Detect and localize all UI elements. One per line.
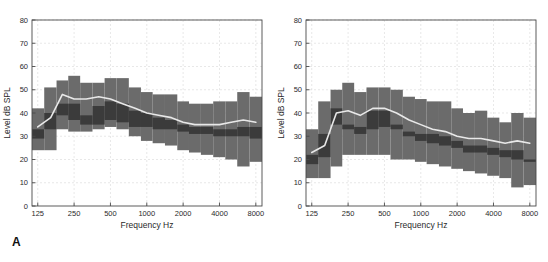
inner-percentile-bar <box>250 127 262 139</box>
y-axis-title: Level dB SPL <box>2 87 12 139</box>
y-tick-label: 0 <box>24 202 28 211</box>
y-tick-label: 50 <box>20 85 28 94</box>
inner-percentile-bar <box>487 148 499 155</box>
inner-percentile-bar <box>105 101 117 120</box>
y-tick-label: 20 <box>294 155 302 164</box>
y-tick-label: 40 <box>20 109 28 118</box>
plot-area-a: 0102030405060708012525050010002000400080… <box>0 0 274 262</box>
inner-percentile-bar <box>80 115 92 124</box>
inner-percentile-bar <box>366 111 378 130</box>
y-tick-label: 60 <box>294 62 302 71</box>
inner-percentile-bar <box>68 104 80 120</box>
inner-percentile-bar <box>499 150 511 157</box>
y-tick-label: 40 <box>294 109 302 118</box>
plot-area-b: 0102030405060708012525050010002000400080… <box>274 0 548 262</box>
y-tick-label: 50 <box>294 85 302 94</box>
inner-percentile-bar <box>354 127 366 134</box>
y-tick-label: 70 <box>294 39 302 48</box>
inner-percentile-bar <box>463 146 475 153</box>
x-tick-label: 125 <box>32 209 45 218</box>
y-tick-label: 10 <box>294 178 302 187</box>
inner-percentile-bar <box>141 113 153 127</box>
outer-percentile-bar <box>475 111 487 174</box>
inner-percentile-bar <box>391 125 403 130</box>
inner-percentile-bar <box>403 132 415 137</box>
y-tick-label: 10 <box>20 178 28 187</box>
outer-percentile-bar <box>451 108 463 168</box>
inner-percentile-bar <box>427 134 439 143</box>
outer-percentile-bar <box>331 90 343 167</box>
inner-percentile-bar <box>92 106 104 125</box>
x-tick-label: 4000 <box>211 209 228 218</box>
x-tick-label: 2000 <box>449 209 466 218</box>
outer-percentile-bar <box>403 97 415 160</box>
x-tick-label: 250 <box>342 209 355 218</box>
outer-percentile-bar <box>415 99 427 162</box>
y-tick-label: 30 <box>20 132 28 141</box>
inner-percentile-bar <box>32 129 44 138</box>
outer-percentile-bar <box>354 92 366 155</box>
x-axis-title: Frequency Hz <box>395 220 448 230</box>
x-tick-label: 500 <box>378 209 391 218</box>
inner-percentile-bar <box>379 111 391 127</box>
inner-percentile-bar <box>524 160 536 162</box>
inner-percentile-bar <box>201 127 213 134</box>
inner-percentile-bar <box>213 129 225 136</box>
chart-panel-b: 0102030405060708012525050010002000400080… <box>274 0 548 262</box>
inner-percentile-bar <box>415 134 427 141</box>
y-axis-title: Level dB SPL <box>276 87 286 139</box>
inner-percentile-bar <box>237 127 249 136</box>
inner-percentile-bar <box>57 104 69 116</box>
y-tick-label: 0 <box>298 202 302 211</box>
x-tick-label: 1000 <box>412 209 429 218</box>
y-tick-label: 30 <box>294 132 302 141</box>
y-tick-label: 20 <box>20 155 28 164</box>
x-tick-label: 4000 <box>485 209 502 218</box>
inner-percentile-bar <box>177 125 189 132</box>
chart-panel-a: 0102030405060708012525050010002000400080… <box>0 0 274 262</box>
outer-percentile-bar <box>463 113 475 171</box>
y-tick-label: 70 <box>20 39 28 48</box>
x-tick-label: 250 <box>68 209 81 218</box>
x-tick-label: 8000 <box>521 209 538 218</box>
outer-percentile-bar <box>427 101 439 164</box>
x-tick-label: 125 <box>306 209 319 218</box>
inner-percentile-bar <box>153 118 165 130</box>
inner-percentile-bar <box>225 129 237 136</box>
inner-percentile-bar <box>439 136 451 145</box>
x-axis-title: Frequency Hz <box>121 220 174 230</box>
x-tick-label: 2000 <box>175 209 192 218</box>
inner-percentile-bar <box>189 127 201 134</box>
outer-percentile-bar <box>342 83 354 155</box>
inner-percentile-bar <box>475 146 487 153</box>
inner-percentile-bar <box>165 120 177 129</box>
x-tick-label: 8000 <box>247 209 264 218</box>
outer-percentile-bar <box>524 118 536 185</box>
y-tick-label: 80 <box>20 16 28 25</box>
y-tick-label: 60 <box>20 62 28 71</box>
x-tick-label: 1000 <box>138 209 155 218</box>
inner-percentile-bar <box>511 150 523 159</box>
x-tick-label: 500 <box>104 209 117 218</box>
outer-percentile-bar <box>487 118 499 176</box>
inner-percentile-bar <box>342 125 354 130</box>
figure-root: 0102030405060708012525050010002000400080… <box>0 0 548 262</box>
inner-percentile-bar <box>451 141 463 148</box>
inner-percentile-bar <box>117 104 129 123</box>
y-tick-label: 80 <box>294 16 302 25</box>
inner-percentile-bar <box>129 111 141 127</box>
panel-label-a: A <box>12 236 21 248</box>
